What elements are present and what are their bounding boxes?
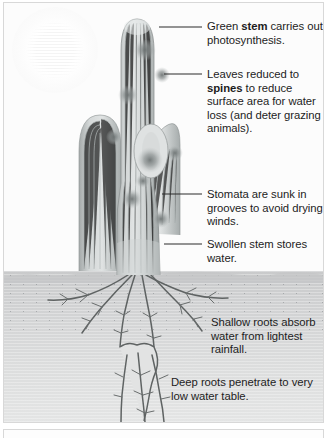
figure-canvas: Green stem carries out photosynthesis. L… xyxy=(0,0,328,438)
annotation-text-run-bold: stem xyxy=(241,20,267,32)
ground-edge xyxy=(4,272,324,283)
illustration-panel: Green stem carries out photosynthesis. L… xyxy=(3,2,324,423)
annotation-stomata-sunk-in-grooves: Stomata are sunk in grooves to avoid dry… xyxy=(207,188,324,229)
annotation-swollen-stem-stores-water: Swollen stem stores water. xyxy=(207,238,324,265)
annotation-text-run-bold: spines xyxy=(207,82,243,94)
annotation-deep-roots: Deep roots penetrate to very low water t… xyxy=(171,376,321,403)
secondary-panel xyxy=(3,429,324,438)
annotation-text-run: Green xyxy=(207,20,241,32)
annotation-text-run: Leaves reduced to xyxy=(207,68,299,80)
annotation-shallow-roots: Shallow roots absorb water from lightest… xyxy=(211,316,324,357)
annotation-leaves-reduced-to-spines: Leaves reduced to spines to reduce surfa… xyxy=(207,68,324,136)
annotation-green-stem: Green stem carries out photosynthesis. xyxy=(207,20,324,47)
